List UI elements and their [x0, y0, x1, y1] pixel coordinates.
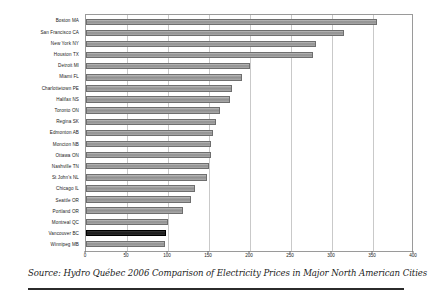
source-caption: Source: Hydro Québec 2006 Comparison of …: [28, 268, 427, 278]
bar-row: [86, 129, 412, 138]
bar-row: [86, 62, 412, 71]
y-axis-label: Vancouver BC: [0, 229, 82, 238]
bar-row: [86, 217, 412, 226]
bar: [86, 74, 242, 80]
y-axis-label: Charlottetown PE: [0, 84, 82, 93]
bar-row: [86, 106, 412, 115]
y-axis-label: Seattle OR: [0, 196, 82, 205]
bar: [86, 63, 250, 69]
x-axis-tick-label: 400: [409, 253, 417, 258]
x-axis-tick-label: 350: [368, 253, 376, 258]
bar: [86, 30, 344, 36]
bar: [86, 174, 207, 180]
bar: [86, 219, 168, 225]
bar-row: [86, 206, 412, 215]
x-axis-tick-label: 200: [245, 253, 253, 258]
bar-row: [86, 195, 412, 204]
bar: [86, 119, 216, 125]
bar-row: [86, 29, 412, 38]
bar: [86, 107, 220, 113]
y-axis-label: Ottawa ON: [0, 151, 82, 160]
bar-row: [86, 140, 412, 149]
x-axis-tick-label: 0: [84, 253, 87, 258]
y-axis-label: Winnipeg MB: [0, 241, 82, 250]
y-axis-label: Detroit MI: [0, 61, 82, 70]
y-axis-category-labels: Boston MASan Francisco CANew York NYHous…: [0, 14, 82, 252]
x-axis-tick-label: 50: [123, 253, 128, 258]
y-axis-label: Montreal QC: [0, 218, 82, 227]
bar-series: [86, 15, 412, 251]
bar: [86, 163, 209, 169]
y-axis-label: Toronto ON: [0, 106, 82, 115]
x-axis-tick-label: 100: [163, 253, 171, 258]
bar: [86, 52, 313, 58]
y-axis-label: New York NY: [0, 39, 82, 48]
bar-row: [86, 184, 412, 193]
chart-page: Boston MASan Francisco CANew York NYHous…: [0, 0, 432, 296]
bar-row: [86, 73, 412, 82]
y-axis-label: San Francisco CA: [0, 28, 82, 37]
x-axis-tick-label: 300: [327, 253, 335, 258]
bar: [86, 19, 377, 25]
bar: [86, 141, 211, 147]
y-axis-label: Moncton NB: [0, 140, 82, 149]
bar-row: [86, 118, 412, 127]
x-axis-tick-labels: 050100150200250300350400: [85, 253, 413, 263]
bar: [86, 230, 166, 236]
footer-divider: [28, 288, 404, 290]
bar-row: [86, 173, 412, 182]
bar: [86, 152, 211, 158]
y-axis-label: St John's NL: [0, 173, 82, 182]
bar-row: [86, 84, 412, 93]
y-axis-label: Edmonton AB: [0, 129, 82, 138]
bar-row: [86, 240, 412, 249]
bar-row: [86, 229, 412, 238]
y-axis-label: Regina SK: [0, 117, 82, 126]
bar: [86, 85, 232, 91]
y-axis-label: Chicago IL: [0, 185, 82, 194]
y-axis-label: Miami FL: [0, 73, 82, 82]
bar-row: [86, 40, 412, 49]
bar-row: [86, 95, 412, 104]
bar: [86, 207, 183, 213]
bar: [86, 185, 195, 191]
x-axis-tick-label: 150: [204, 253, 212, 258]
bar-row: [86, 151, 412, 160]
bar-row: [86, 162, 412, 171]
x-axis-tick-label: 250: [286, 253, 294, 258]
chart-plot-area: [85, 14, 413, 252]
y-axis-label: Halifax NS: [0, 95, 82, 104]
bar-row: [86, 51, 412, 60]
y-axis-label: Nashville TN: [0, 162, 82, 171]
bar: [86, 41, 316, 47]
bar: [86, 96, 230, 102]
bar: [86, 241, 165, 247]
bar: [86, 196, 191, 202]
y-axis-label: Houston TX: [0, 50, 82, 59]
y-axis-label: Portland OR: [0, 207, 82, 216]
bar: [86, 130, 213, 136]
bar-row: [86, 18, 412, 27]
y-axis-label: Boston MA: [0, 17, 82, 26]
